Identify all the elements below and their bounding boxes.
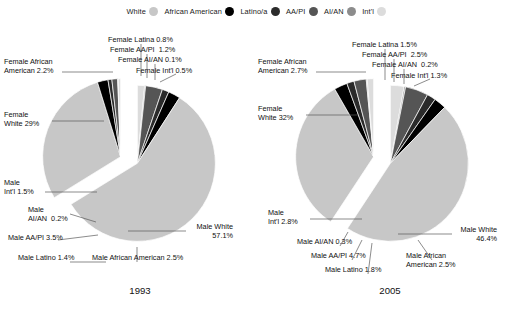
label-2005-female-intl: Female Int'l 1.3%	[391, 71, 447, 80]
label-1993-male-white: Male White 57.1%	[130, 222, 233, 240]
chart-page: WhiteAfrican AmericanLatino/aAA/PIAI/ANI…	[0, 0, 513, 315]
label-1993-male-aapi: Male AA/PI 3.5%	[8, 233, 63, 242]
label-2005-male-latino: Male Latino 1.8%	[325, 265, 381, 274]
leader-line	[58, 235, 98, 240]
pie-1993	[43, 79, 216, 242]
label-2005-male-white: Male White 46.4%	[400, 225, 497, 243]
label-2005-female-african-american: Female African American 2.7%	[258, 57, 307, 75]
label-2005-male-aapi: Male AA/PI 4.7%	[311, 251, 366, 260]
label-1993-female-intl: Female Int'l 0.5%	[136, 66, 192, 75]
label-1993-female-aian: Female AI/AN 0.1%	[118, 55, 182, 64]
label-1993-female-latina: Female Latina 0.8%	[108, 35, 173, 44]
pie-2005	[296, 79, 469, 242]
label-1993-male-intl: Male Int'l 1.5%	[4, 178, 34, 196]
label-2005-male-intl: Male Int'l 2.8%	[268, 208, 298, 226]
label-1993-male-latino: Male Latino 1.4%	[18, 253, 74, 262]
year-label-2005: 2005	[340, 285, 440, 296]
label-2005-female-aapi: Female AA/PI 2.5%	[362, 50, 427, 59]
label-1993-male-african-american: Male African American 2.5%	[92, 253, 183, 262]
label-1993-female-aapi: Female AA/PI 1.2%	[110, 45, 175, 54]
year-label-1993: 1993	[90, 285, 190, 296]
label-1993-female-african-american: Female African American 2.2%	[4, 57, 53, 75]
label-1993-male-aian: Male AI/AN 0.2%	[28, 205, 68, 223]
label-2005-male-aian: Male AI/AN 0.3%	[297, 237, 352, 246]
label-1993-female-white: Female White 29%	[4, 110, 39, 128]
label-2005-female-latina: Female Latina 1.5%	[352, 40, 417, 49]
label-2005-male-african-american: Male African American 2.5%	[406, 251, 455, 269]
label-2005-female-aian: Female AI/AN 0.2%	[372, 60, 438, 69]
pie-charts-stage: Female African American 2.2% Female Lati…	[0, 0, 513, 315]
label-2005-female-white: Female White 32%	[258, 104, 293, 122]
